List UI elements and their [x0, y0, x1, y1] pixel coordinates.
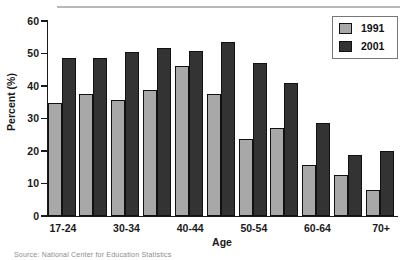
bar-2001-55-59 — [284, 83, 298, 216]
bar-1991-55-59 — [270, 128, 284, 216]
bar-2001-65-69 — [348, 155, 362, 216]
legend-label-2001: 2001 — [361, 40, 384, 52]
chart-figure: 0102030405060 Percent (%) 17-2430-3440-4… — [0, 0, 405, 260]
top-divider-rule — [57, 6, 400, 8]
bar-1991-30-34 — [111, 100, 125, 216]
bar-2001-45-49 — [221, 42, 235, 216]
y-axis-title: Percent (%) — [5, 52, 17, 152]
legend-swatch-2001-icon — [339, 41, 352, 52]
x-axis-tick-label-40-44: 40-44 — [177, 222, 204, 234]
bar-1991-50-54 — [239, 139, 253, 216]
bar-1991-25-29 — [79, 94, 93, 216]
y-axis-tick-label: 0 — [5, 211, 39, 221]
y-axis-tick-label: 60 — [5, 16, 39, 26]
x-axis-line — [47, 216, 398, 217]
bar-2001-50-54 — [253, 63, 267, 216]
bar-2001-25-29 — [93, 58, 107, 216]
x-axis-tick-label-30-34: 30-34 — [113, 222, 140, 234]
bar-2001-70+ — [380, 151, 394, 216]
chart-legend: 1991 2001 — [332, 16, 398, 59]
x-axis-tick-label-50-54: 50-54 — [240, 222, 267, 234]
bar-2001-30-34 — [125, 52, 139, 216]
x-axis-title: Age — [47, 236, 397, 248]
bar-2001-17-24 — [62, 58, 76, 216]
y-axis-tick-label: 10 — [5, 178, 39, 188]
bar-1991-35-39 — [143, 90, 157, 216]
bar-1991-17-24 — [48, 103, 62, 216]
bar-1991-45-49 — [207, 94, 221, 216]
bar-2001-35-39 — [157, 48, 171, 216]
bar-1991-65-69 — [334, 175, 348, 216]
x-axis-tick-label-70+: 70+ — [372, 222, 390, 234]
bar-2001-40-44 — [189, 51, 203, 216]
legend-label-1991: 1991 — [361, 22, 384, 34]
x-axis-tick-label-60-64: 60-64 — [304, 222, 331, 234]
bar-1991-40-44 — [175, 66, 189, 216]
bar-1991-60-64 — [302, 165, 316, 216]
bar-1991-70+ — [366, 190, 380, 216]
source-note: Source: National Center for Education St… — [14, 251, 171, 258]
legend-swatch-1991-icon — [339, 23, 352, 34]
x-axis-tick-label-17-24: 17-24 — [49, 222, 76, 234]
bar-2001-60-64 — [316, 123, 330, 216]
